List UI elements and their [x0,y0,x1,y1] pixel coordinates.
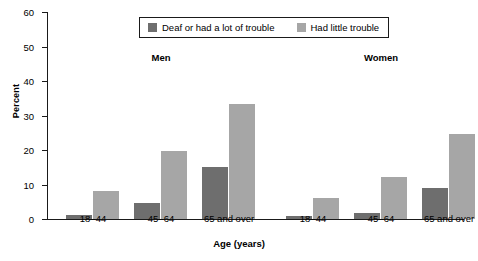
y-axis-tick-label: 0 [29,214,34,225]
legend-item: Deaf or had a lot of trouble [148,22,275,33]
legend-item-label: Deaf or had a lot of trouble [162,22,275,33]
x-axis-title: Age (years) [0,238,478,249]
y-axis-tick-label: 50 [23,41,34,52]
y-axis-tick: 30 [42,116,47,117]
legend-item-label: Had little trouble [311,22,380,33]
y-axis-tick: 40 [42,81,47,82]
chart-legend: Deaf or had a lot of trouble Had little … [139,17,389,38]
plot-area: 0102030405060 [47,12,464,220]
group-label: Men [152,52,171,63]
y-axis-tick-label: 20 [23,145,34,156]
y-axis-tick: 60 [42,12,47,13]
x-axis-category-label: 18–44 [300,213,326,224]
x-axis-category-label: 45–64 [368,213,394,224]
y-axis-tick: 20 [42,150,47,151]
bar [161,151,187,219]
group-label: Women [364,52,398,63]
bar-chart: Percent 0102030405060 18–4445–6465 and o… [0,0,478,261]
bar [229,104,255,219]
y-axis-tick: 50 [42,47,47,48]
y-axis-tick-label: 60 [23,7,34,18]
legend-swatch-icon [148,23,157,32]
legend-swatch-icon [297,23,306,32]
y-axis-tick: 10 [42,185,47,186]
legend-item: Had little trouble [297,22,380,33]
y-axis-tick-label: 40 [23,76,34,87]
y-axis-title: Percent [11,66,21,136]
x-axis-category-label: 18–44 [80,213,106,224]
bar-series-container [48,12,464,220]
y-axis-tick-label: 30 [23,110,34,121]
x-axis-category-label: 65 and over [204,213,254,224]
x-axis-category-label: 65 and over [424,213,474,224]
bar [449,134,475,219]
bar [202,167,228,219]
x-axis-category-label: 45–64 [148,213,174,224]
y-axis-tick-label: 10 [23,179,34,190]
y-axis-tick: 0 [42,219,47,220]
